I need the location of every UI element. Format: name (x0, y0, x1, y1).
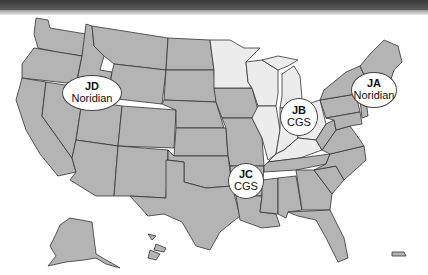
state-az (70, 140, 118, 196)
jurisdiction-label-jb: JB CGS (280, 98, 318, 136)
jurisdiction-contractor: Noridian (72, 93, 113, 105)
jurisdiction-contractor: CGS (234, 181, 258, 193)
jurisdiction-label-jc: JC CGS (228, 163, 264, 199)
state-fl (288, 210, 348, 262)
state-hi-1 (148, 234, 156, 240)
jurisdiction-label-jd: JD Noridian (62, 75, 122, 111)
state-mt (92, 26, 168, 70)
state-nd (166, 38, 214, 70)
state-ia (214, 88, 258, 118)
state-hi-2 (154, 244, 166, 252)
jurisdiction-label-ja: JA Noridian (351, 72, 397, 108)
state-ak (48, 218, 120, 268)
state-nm (114, 146, 168, 198)
state-sd (164, 70, 216, 102)
state-ks (174, 128, 228, 156)
state-pr (392, 252, 406, 256)
jurisdiction-contractor: Noridian (354, 90, 395, 102)
state-hi-3 (148, 250, 160, 260)
jurisdiction-contractor: CGS (287, 117, 311, 129)
state-co (118, 106, 176, 148)
us-map (0, 0, 428, 275)
